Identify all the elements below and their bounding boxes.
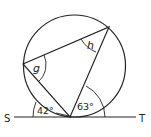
circle-diagram: S T g h 42° 63° — [0, 0, 151, 137]
label-h: h — [87, 39, 94, 52]
label-t: T — [138, 113, 146, 124]
label-g: g — [33, 62, 40, 75]
label-42: 42° — [37, 105, 54, 116]
label-s: S — [4, 113, 10, 124]
arc-42 — [33, 102, 36, 117]
label-63: 63° — [77, 101, 94, 112]
